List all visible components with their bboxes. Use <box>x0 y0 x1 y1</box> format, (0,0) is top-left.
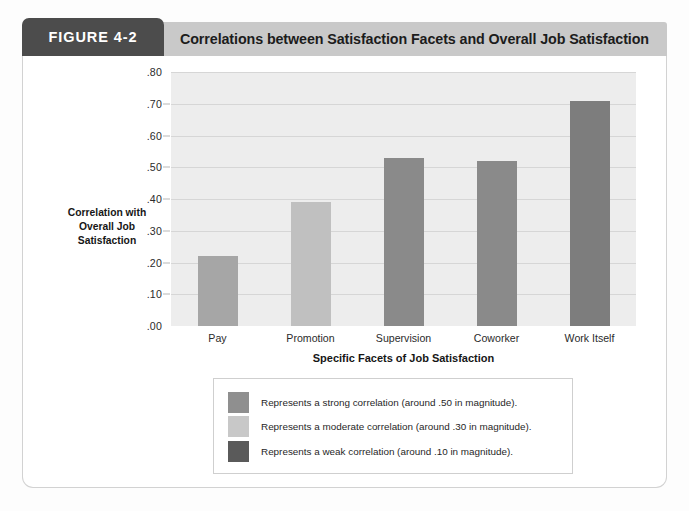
x-axis-tick-label: Coworker <box>474 332 519 344</box>
y-axis-tick-label: .00 <box>147 320 171 332</box>
legend-label-weak: Represents a weak correlation (around .1… <box>261 446 513 457</box>
legend-swatch-weak <box>228 441 249 462</box>
x-axis-tick-label: Pay <box>208 332 226 344</box>
bar <box>477 161 517 326</box>
figure-header: FIGURE 4-2 Correlations between Satisfac… <box>22 22 667 56</box>
x-axis-tick-label: Promotion <box>286 332 334 344</box>
y-axis-tick-label: .60 <box>147 130 171 142</box>
y-axis-tick-label: .40 <box>147 193 171 205</box>
gridline <box>171 136 636 137</box>
x-axis-title: Specific Facets of Job Satisfaction <box>171 352 636 364</box>
figure-number-tab: FIGURE 4-2 <box>22 18 164 56</box>
bar <box>570 101 610 326</box>
figure-card: Correlation with Overall Job Satisfactio… <box>22 56 667 488</box>
bar <box>198 256 238 326</box>
figure-title: Correlations between Satisfaction Facets… <box>180 22 649 56</box>
y-axis-tick-label: .10 <box>147 288 171 300</box>
legend-label-strong: Represents a strong correlation (around … <box>261 397 517 408</box>
figure-number-label: FIGURE 4-2 <box>49 29 138 45</box>
legend-swatch-moderate <box>228 416 249 437</box>
legend-item: Represents a weak correlation (around .1… <box>228 439 558 464</box>
legend-item: Represents a moderate correlation (aroun… <box>228 415 558 440</box>
y-axis-tick-label: .70 <box>147 98 171 110</box>
y-axis-tick-label: .20 <box>147 257 171 269</box>
plot-area: .00.10.20.30.40.50.60.70.80PayPromotionS… <box>171 72 636 326</box>
legend-label-moderate: Represents a moderate correlation (aroun… <box>261 421 532 432</box>
gridline <box>171 104 636 105</box>
x-axis-tick-label: Supervision <box>376 332 431 344</box>
legend-swatch-strong <box>228 392 249 413</box>
x-axis-tick-label: Work Itself <box>565 332 615 344</box>
y-axis-tick-label: .30 <box>147 225 171 237</box>
chart-legend: Represents a strong correlation (around … <box>213 378 573 474</box>
bar <box>291 202 331 326</box>
figure-page: FIGURE 4-2 Correlations between Satisfac… <box>0 0 689 511</box>
bar <box>384 158 424 326</box>
y-axis-tick-label: .80 <box>147 66 171 78</box>
gridline <box>171 72 636 73</box>
y-axis-tick-label: .50 <box>147 161 171 173</box>
legend-item: Represents a strong correlation (around … <box>228 390 558 415</box>
